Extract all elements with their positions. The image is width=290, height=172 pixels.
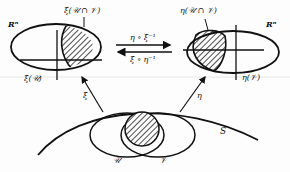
right-chart xyxy=(183,19,279,80)
set-u-label: 𝒰 xyxy=(113,157,120,165)
intersection-region xyxy=(125,112,159,146)
right-intersection-label: η(𝒰 ∩ 𝒱) xyxy=(180,7,217,15)
left-image-label: ξ(𝒰) xyxy=(24,75,42,83)
right-image-label: η(𝒱) xyxy=(242,74,260,82)
right-space-label: Rⁿ xyxy=(266,20,276,28)
xi-map-label: ξ xyxy=(83,92,87,100)
left-chart xyxy=(11,17,102,80)
left-intersection-label: ξ(𝒰 ∩ 𝒱) xyxy=(64,7,100,15)
backward-transition-label: ξ ∘ η⁻¹ xyxy=(130,56,156,64)
left-space-label: Rⁿ xyxy=(8,20,18,28)
diagram-graphics xyxy=(0,0,290,172)
eta-map-label: η xyxy=(197,92,202,100)
manifold-chart-diagram: Rⁿ ξ(𝒰 ∩ 𝒱) ξ(𝒰) Rⁿ η(𝒰 ∩ 𝒱) η(𝒱) η ∘ ξ⁻… xyxy=(0,0,290,172)
set-v-label: 𝒱 xyxy=(160,157,167,165)
surface-label: S xyxy=(220,127,226,136)
forward-transition-label: η ∘ ξ⁻¹ xyxy=(130,34,156,42)
